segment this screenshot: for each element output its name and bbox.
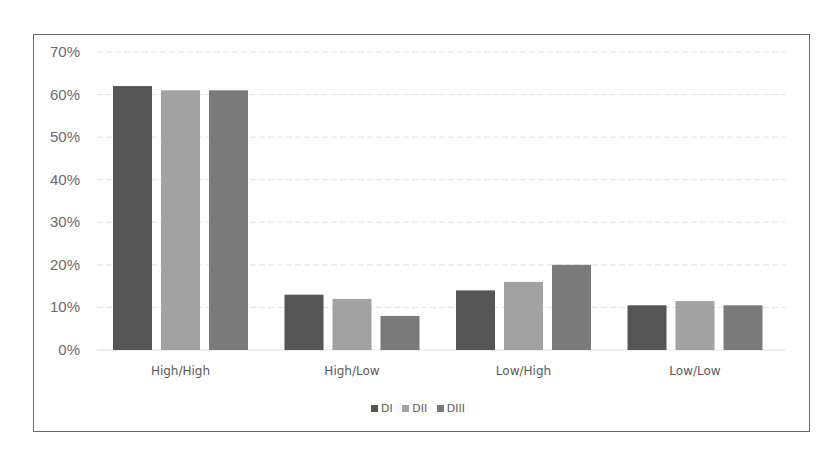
bar-diii-high-low: [381, 316, 420, 350]
bar-diii-low-high: [552, 265, 591, 350]
y-axis-tick-label: 10%: [50, 298, 80, 315]
bar-di-low-low: [628, 305, 667, 350]
y-axis-tick-label: 30%: [50, 213, 80, 230]
bar-diii-low-low: [724, 305, 763, 350]
x-axis-category-label: Low/Low: [669, 364, 720, 378]
legend-item-di: DI: [371, 402, 393, 415]
legend-item-dii: DII: [402, 402, 427, 415]
legend-label-di: DI: [381, 402, 393, 415]
bar-di-high-high: [113, 86, 152, 350]
bar-di-low-high: [456, 290, 495, 350]
bar-dii-low-low: [676, 301, 715, 350]
bar-dii-high-low: [333, 299, 372, 350]
legend-swatch-dii: [402, 405, 409, 412]
y-axis-tick-label: 50%: [50, 128, 80, 145]
legend-label-diii: DIII: [447, 402, 465, 415]
legend-item-diii: DIII: [437, 402, 465, 415]
bar-dii-high-high: [161, 90, 200, 350]
legend-swatch-di: [371, 405, 378, 412]
y-axis-tick-label: 0%: [58, 341, 80, 358]
x-axis-category-label: High/High: [151, 364, 210, 378]
y-axis-tick-label: 40%: [50, 171, 80, 188]
y-axis-tick-label: 20%: [50, 256, 80, 273]
y-axis-tick-label: 60%: [50, 86, 80, 103]
x-axis-category-label: Low/High: [496, 364, 551, 378]
bar-diii-high-high: [209, 90, 248, 350]
y-axis-tick-label: 70%: [50, 43, 80, 60]
legend-swatch-diii: [437, 405, 444, 412]
bar-dii-low-high: [504, 282, 543, 350]
bar-chart-plot: 0%10%20%30%40%50%60%70%High/HighHigh/Low…: [0, 0, 836, 462]
legend-label-dii: DII: [412, 402, 427, 415]
bar-di-high-low: [285, 295, 324, 350]
x-axis-category-label: High/Low: [324, 364, 379, 378]
chart-legend: DI DII DIII: [0, 402, 836, 415]
